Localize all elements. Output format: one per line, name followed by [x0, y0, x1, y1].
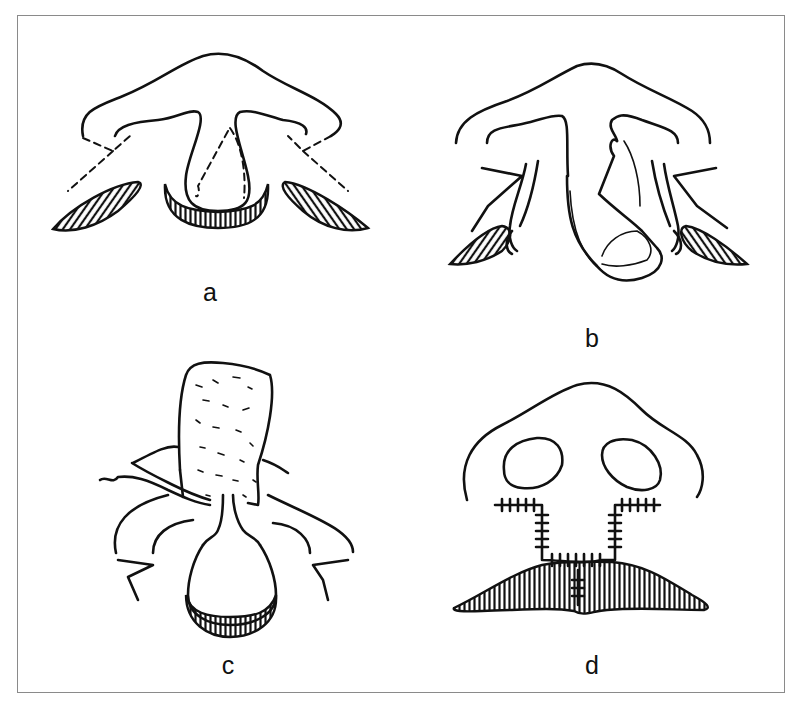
graft-stipple [196, 377, 256, 497]
panel-c: c [18, 355, 402, 694]
panel-label-c: c [208, 651, 248, 680]
right-nostril [602, 439, 661, 490]
left-nostril [504, 438, 563, 488]
panel-label-a: a [190, 278, 230, 307]
panel-label-b: b [572, 324, 612, 353]
panel-b-drawing [402, 16, 786, 355]
panel-b: b [402, 16, 786, 355]
panel-a: a [18, 16, 402, 355]
panel-label-d: d [572, 651, 612, 680]
panel-c-drawing [18, 355, 402, 694]
panel-d: d [402, 355, 786, 694]
panel-d-drawing [402, 355, 786, 694]
upper-lip-segment [454, 562, 708, 614]
figure-frame: a [17, 15, 785, 693]
